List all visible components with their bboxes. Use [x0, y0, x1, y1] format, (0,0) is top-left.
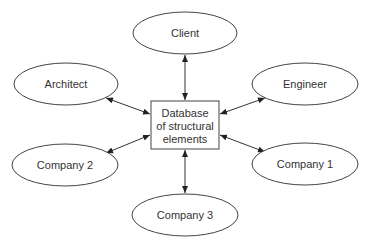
center-line-1: Database — [161, 107, 208, 119]
node-label: Engineer — [283, 78, 327, 90]
center-database-box: Database of structural elements — [151, 101, 219, 149]
edge-architect — [106, 98, 150, 114]
edge-engineer — [220, 98, 265, 114]
node-label: Client — [171, 27, 199, 39]
center-line-2: of structural — [156, 120, 213, 132]
node-label: Company 3 — [157, 209, 213, 221]
diagram-canvas: Database of structural elements Client A… — [0, 0, 369, 247]
node-label: Architect — [45, 78, 88, 90]
center-line-3: elements — [163, 133, 208, 145]
node-engineer: Engineer — [252, 63, 358, 105]
node-label: Company 2 — [37, 159, 93, 171]
node-company2: Company 2 — [12, 144, 118, 186]
node-company3: Company 3 — [132, 194, 238, 236]
node-architect: Architect — [14, 63, 118, 105]
node-label: Company 1 — [277, 158, 333, 170]
edge-company2 — [106, 135, 150, 153]
edge-company1 — [220, 135, 265, 152]
node-client: Client — [133, 12, 237, 54]
node-company1: Company 1 — [252, 143, 358, 185]
